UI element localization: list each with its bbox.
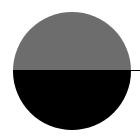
figure-canvas	[0, 0, 140, 140]
half-circle-icon	[0, 0, 140, 140]
circle-bottom-half	[0, 71, 140, 140]
circle-top-half	[0, 0, 140, 71]
